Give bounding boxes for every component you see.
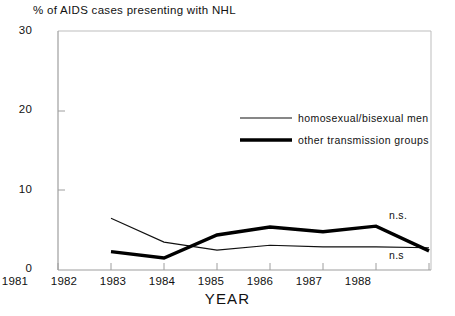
series-line-other-transmission-groups xyxy=(111,226,429,258)
legend-label-homosexual-bisexual-men: homosexual/bisexual men xyxy=(298,112,429,124)
chart-figure: % of AIDS cases presenting with NHL 30 2… xyxy=(0,0,455,316)
annotation-ns-lower: n.s xyxy=(389,249,404,261)
legend-label-other-transmission-groups: other transmission groups xyxy=(298,134,429,146)
x-axis-ticks xyxy=(58,263,429,270)
annotation-ns-upper: n.s. xyxy=(389,209,407,221)
series-line-homosexual-bisexual-men xyxy=(111,218,429,250)
x-axis-title: YEAR xyxy=(0,290,455,307)
plot-area xyxy=(0,0,455,316)
axis-frame xyxy=(58,31,431,270)
y-axis-ticks xyxy=(58,111,65,190)
